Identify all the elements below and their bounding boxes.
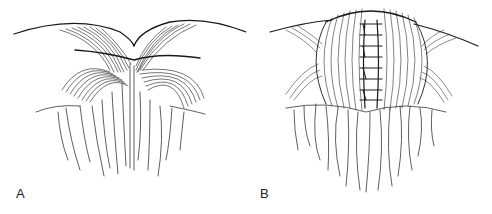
panel-label-b: B (260, 186, 269, 201)
panel-b: B (246, 0, 492, 214)
panel-b-illustration (246, 0, 492, 214)
panel-a-illustration (0, 0, 246, 214)
panel-a: A (0, 0, 246, 214)
panel-label-a: A (16, 186, 25, 201)
